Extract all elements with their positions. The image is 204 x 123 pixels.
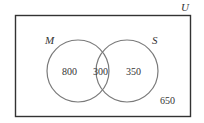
s-only-value: 350 bbox=[126, 66, 141, 77]
outside-value: 650 bbox=[160, 95, 175, 106]
set-s-label: S bbox=[152, 34, 158, 46]
venn-diagram: U M S 800 300 350 650 bbox=[0, 0, 204, 123]
intersection-value: 300 bbox=[93, 66, 108, 77]
universe-label: U bbox=[181, 1, 190, 13]
m-only-value: 800 bbox=[62, 66, 77, 77]
set-m-label: M bbox=[44, 34, 55, 46]
